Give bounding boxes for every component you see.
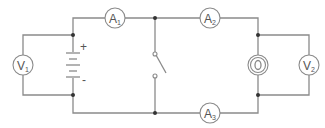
- meter-letter: A: [204, 107, 212, 121]
- voltmeter-v2: V2: [299, 55, 319, 75]
- junction-node: [71, 93, 75, 97]
- switch-icon[interactable]: [153, 52, 166, 78]
- meter-subscript: 2: [212, 19, 216, 26]
- meter-subscript: 1: [117, 19, 121, 26]
- meter-subscript: 3: [212, 114, 216, 121]
- junction-nodes: [71, 16, 260, 115]
- junction-node: [71, 33, 75, 37]
- voltmeter-v1: V1: [13, 55, 33, 75]
- ammeter-a1: A1: [105, 8, 125, 28]
- meter-letter: A: [204, 12, 212, 26]
- circuit-diagram: + - V1 A1 A2 A3: [0, 0, 325, 128]
- meter-subscript: 2: [311, 66, 315, 73]
- battery-negative-label: -: [82, 73, 86, 87]
- ammeter-a3: A3: [200, 103, 220, 123]
- bulb-icon: [248, 55, 268, 75]
- ammeter-a2: A2: [200, 8, 220, 28]
- junction-node: [153, 111, 157, 115]
- junction-node: [256, 33, 260, 37]
- battery-icon: + -: [66, 40, 87, 87]
- meter-subscript: 1: [25, 66, 29, 73]
- battery-positive-label: +: [80, 40, 87, 54]
- meter-letter: A: [109, 12, 117, 26]
- junction-node: [256, 93, 260, 97]
- meter-letter: V: [303, 59, 311, 73]
- junction-node: [153, 16, 157, 20]
- meter-letter: V: [17, 59, 25, 73]
